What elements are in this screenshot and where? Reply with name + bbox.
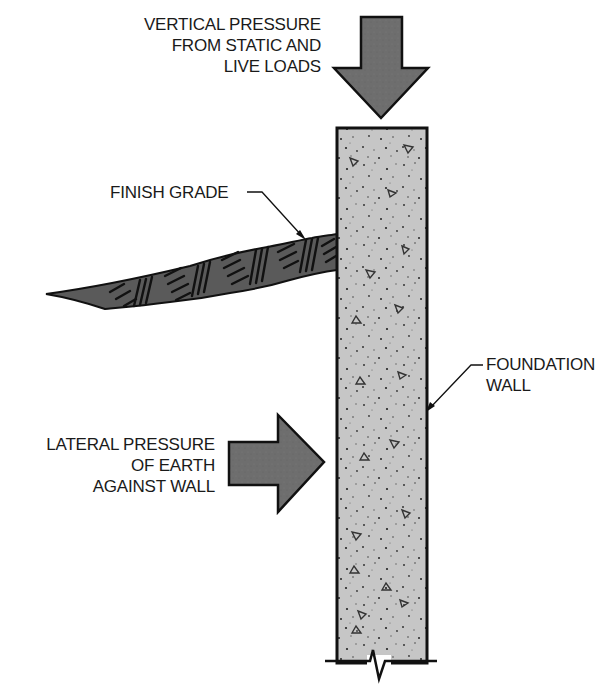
diagram-canvas xyxy=(0,0,616,685)
lateral-pressure-arrow xyxy=(229,415,324,512)
vertical-pressure-line-2: FROM STATIC AND xyxy=(86,35,321,56)
finish-grade-label: FINISH GRADE xyxy=(110,182,229,203)
earth-fill xyxy=(46,234,337,309)
vertical-pressure-label: VERTICAL PRESSURE FROM STATIC AND LIVE L… xyxy=(86,14,321,77)
vertical-pressure-arrow xyxy=(334,17,428,118)
lateral-pressure-line-3: AGAINST WALL xyxy=(10,476,215,497)
foundation-wall-line-1: FOUNDATION xyxy=(486,354,595,375)
foundation-wall-line-2: WALL xyxy=(486,375,595,396)
vertical-pressure-line-3: LIVE LOADS xyxy=(86,56,321,77)
lateral-pressure-line-2: OF EARTH xyxy=(10,455,215,476)
foundation-wall-leader xyxy=(426,365,483,412)
lateral-pressure-line-1: LATERAL PRESSURE xyxy=(10,434,215,455)
foundation-wall-label: FOUNDATION WALL xyxy=(486,354,595,396)
lateral-pressure-label: LATERAL PRESSURE OF EARTH AGAINST WALL xyxy=(10,434,215,497)
foundation-wall xyxy=(325,128,437,685)
vertical-pressure-line-1: VERTICAL PRESSURE xyxy=(86,14,321,35)
finish-grade-leader xyxy=(247,192,306,240)
